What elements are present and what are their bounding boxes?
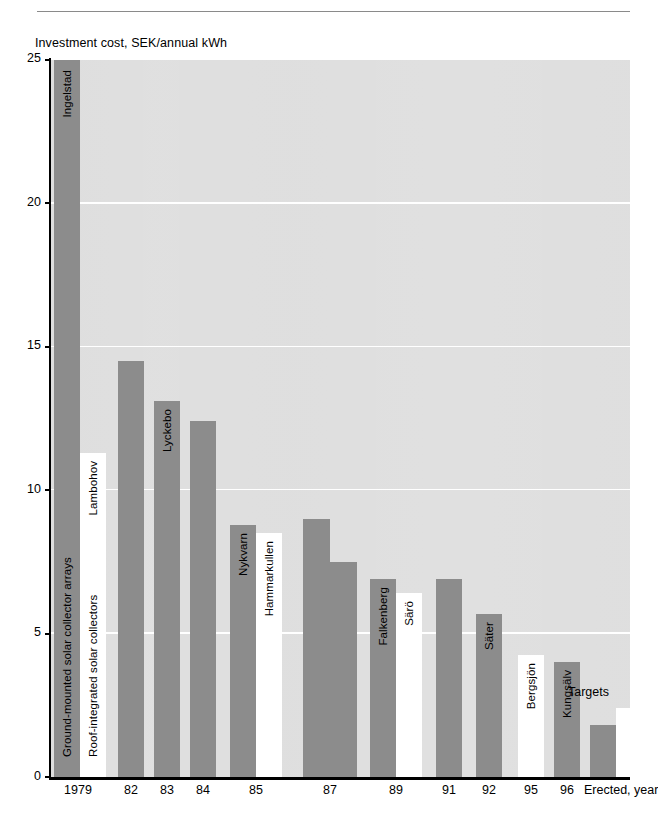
bar-label-nykvarn: Nykvarn [237,533,249,576]
bar-target-roof-integrated[interactable] [616,708,630,777]
x-axis-label-1979: 1979 [50,783,106,797]
y-axis-label-5: 5 [13,625,41,639]
y-axis-label-20: 20 [13,195,41,209]
bar-label-roof-integrated: Roof-integrated solar collectors [87,595,99,757]
x-axis-line [49,777,630,780]
top-divider-rule [37,11,630,12]
plot-area: Ingelstad Ground-mounted solar collector… [50,60,630,777]
x-axis-label-84: 84 [190,783,216,797]
bar-1991[interactable] [436,579,462,777]
bar-1987-a[interactable] [303,519,330,777]
x-axis-label-96: 96 [554,783,580,797]
bar-label-falkenberg: Falkenberg [377,587,389,646]
y-axis-label-0: 0 [13,769,41,783]
bar-lyckebo[interactable]: Lyckebo [154,401,180,777]
bar-label-ingelstad: Ingelstad [61,70,73,118]
x-axis-label-85: 85 [230,783,282,797]
bar-1982[interactable] [118,361,144,777]
y-tick-20 [45,202,50,204]
bar-nykvarn[interactable]: Nykvarn [230,525,256,777]
bar-lambohov[interactable]: Lambohov Roof-integrated solar collector… [80,453,106,777]
x-axis-label-91: 91 [436,783,462,797]
gridline-20 [50,202,630,204]
y-axis-label-10: 10 [13,482,41,496]
x-axis-label-92: 92 [476,783,502,797]
bar-label-hammarkullen: Hammarkullen [263,541,275,616]
bar-falkenberg[interactable]: Falkenberg [370,579,396,777]
y-tick-5 [45,633,50,635]
bar-hammarkullen[interactable]: Hammarkullen [256,533,282,777]
x-axis-label-82: 82 [118,783,144,797]
y-tick-10 [45,489,50,491]
bar-label-lyckebo: Lyckebo [161,409,173,452]
bar-saro[interactable]: Särö [396,593,422,777]
x-axis-label-95: 95 [518,783,544,797]
gridline-15 [50,346,630,348]
bar-1984[interactable] [190,421,216,777]
bar-bergsjon[interactable]: Bergsjön [518,655,544,777]
bar-1987-b[interactable] [330,562,357,777]
bar-label-bergsjon: Bergsjön [525,663,537,709]
bar-label-ground-mounted: Ground-mounted solar collector arrays [61,557,73,757]
x-axis-label-87: 87 [303,783,357,797]
bar-kungsalv[interactable]: Kungsälv [554,662,580,777]
bar-ingelstad[interactable]: Ingelstad Ground-mounted solar collector… [54,60,80,777]
bar-label-sater: Säter [483,622,495,650]
y-axis-label-25: 25 [13,51,41,65]
x-axis-caption: Erected, year [584,783,658,797]
y-axis-label-15: 15 [13,338,41,352]
y-tick-15 [45,346,50,348]
bar-label-saro: Särö [403,601,415,626]
y-axis-line [49,58,51,779]
bar-label-lambohov: Lambohov [87,461,99,516]
x-axis-label-83: 83 [154,783,180,797]
x-axis-label-89: 89 [370,783,422,797]
chart-axis-title: Investment cost, SEK/annual kWh [35,36,227,50]
y-tick-25 [45,59,50,61]
annotation-targets: Targets [568,685,609,699]
bar-sater[interactable]: Säter [476,614,502,778]
bar-target-ground-mounted[interactable] [590,725,616,777]
